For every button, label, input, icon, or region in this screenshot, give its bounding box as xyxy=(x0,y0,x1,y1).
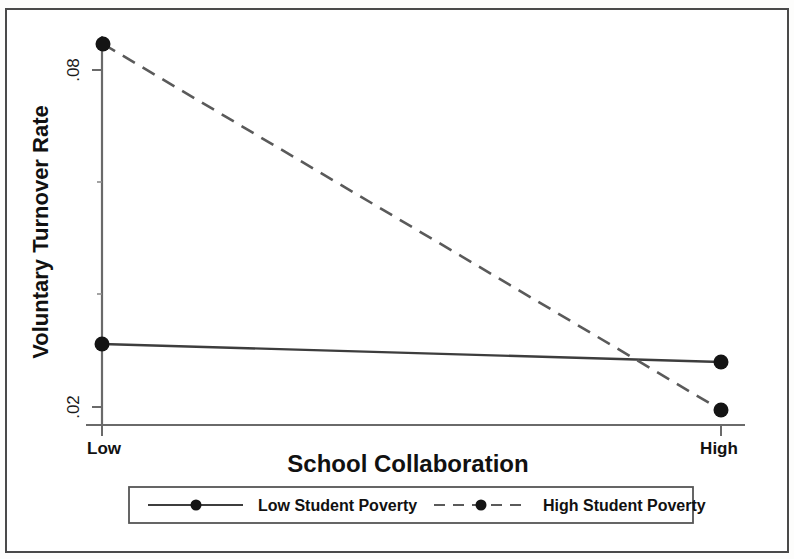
series-high-poverty-point-low xyxy=(96,37,111,52)
legend-label-high-poverty: High Student Poverty xyxy=(543,497,706,514)
x-tick-label-high: High xyxy=(700,439,738,458)
series-low-poverty-point-low xyxy=(95,337,110,352)
legend-swatch-low-poverty-marker xyxy=(191,500,202,511)
x-tick-label-low: Low xyxy=(87,439,122,458)
legend-label-low-poverty: Low Student Poverty xyxy=(258,497,417,514)
y-axis-title: Voluntary Turnover Rate xyxy=(28,105,53,358)
legend-swatch-high-poverty-marker xyxy=(476,500,487,511)
series-low-poverty-point-high xyxy=(714,355,729,370)
x-axis-title: School Collaboration xyxy=(287,450,528,477)
series-high-poverty-line xyxy=(103,44,721,410)
y-tick-label-top: .08 xyxy=(64,58,83,82)
y-tick-label-bottom: .02 xyxy=(64,395,83,419)
series-high-poverty-point-high xyxy=(714,403,729,418)
figure-container: .08 .02 Voluntary Turnover Rate Low High… xyxy=(0,0,794,559)
series-low-poverty-line xyxy=(102,344,721,362)
line-chart: .08 .02 Voluntary Turnover Rate Low High… xyxy=(0,0,794,559)
